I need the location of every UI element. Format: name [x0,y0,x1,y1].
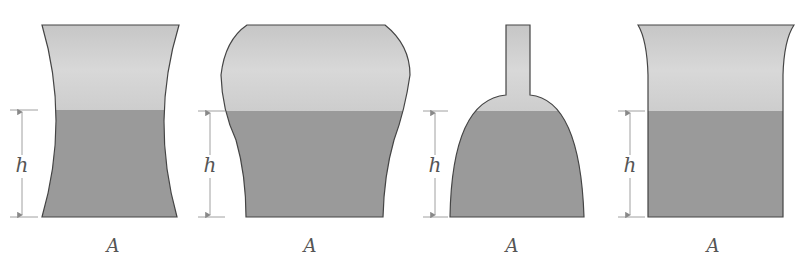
height-dimension: h [198,111,225,217]
height-dimension: h [618,111,645,217]
height-dimension: h [10,110,38,217]
container-concave: h A [10,20,190,256]
height-label: h [624,153,637,177]
container-bulging: h A [198,20,415,256]
height-label: h [16,153,29,177]
container-flared: h A [618,20,800,256]
height-label: h [204,153,217,177]
height-label: h [429,153,442,177]
area-label: A [504,235,519,256]
area-label: A [105,235,120,256]
height-dimension: h [423,111,448,217]
area-label: A [302,235,317,256]
container-flask: h A [423,20,590,256]
pressure-containers-diagram: h A h A h A [0,0,802,260]
area-label: A [705,235,720,256]
